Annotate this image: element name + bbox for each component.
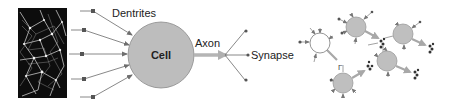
dendrite-inputs — [69, 11, 132, 97]
synapse-dots — [244, 29, 249, 81]
synapse-branches — [225, 31, 248, 80]
synapse-label: Synapse — [251, 49, 294, 61]
network-marker-label: Γ — [338, 63, 343, 72]
axon-label: Axon — [195, 37, 220, 49]
network-node-a — [346, 17, 366, 37]
network-node-d — [333, 73, 353, 93]
network-input-node — [310, 33, 330, 53]
network-node-c — [377, 51, 397, 71]
cell-label: Cell — [151, 49, 171, 61]
neural-network: Γ — [298, 11, 434, 98]
neuron-model: Dentrites Cell Axon Synapse — [69, 7, 294, 99]
network-node-b — [393, 24, 413, 44]
neuron-diagram-figure: Dentrites Cell Axon Synapse — [0, 0, 455, 105]
dentrites-label: Dentrites — [112, 7, 157, 19]
microscope-image — [18, 8, 67, 98]
